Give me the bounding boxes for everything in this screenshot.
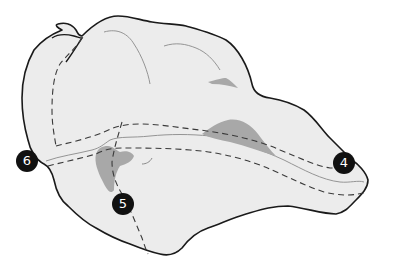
waypoint-marker-5[interactable]: 5 [112, 193, 134, 215]
region-map [0, 0, 393, 274]
waypoint-marker-4[interactable]: 4 [333, 152, 355, 174]
land-outline [22, 16, 368, 255]
waypoint-marker-6[interactable]: 6 [16, 150, 38, 172]
marker-label: 6 [23, 153, 31, 168]
marker-label: 4 [340, 155, 348, 170]
marker-label: 5 [119, 196, 127, 211]
